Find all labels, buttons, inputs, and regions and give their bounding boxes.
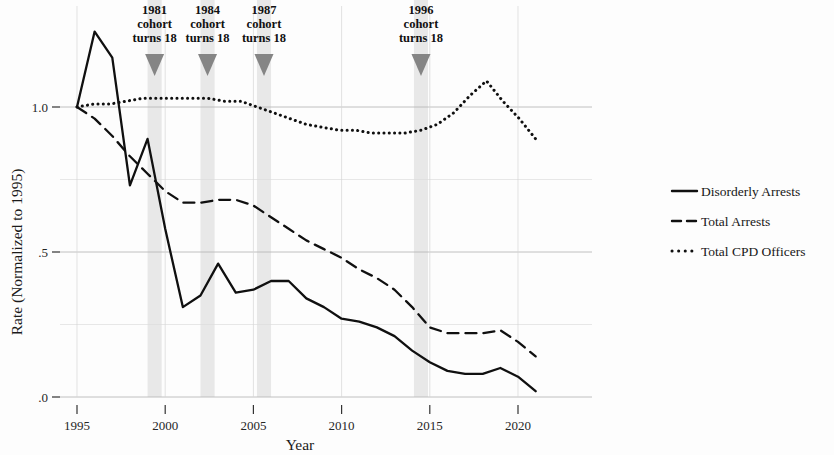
- legend-item-total-cpd-officers: Total CPD Officers: [672, 244, 806, 259]
- label-cohort-1981-line3: turns 18: [133, 31, 177, 45]
- label-cohort-1984-line1: 1984: [195, 3, 221, 17]
- y-tick-label: 1.0: [32, 100, 48, 115]
- x-tick-label: 1995: [64, 418, 90, 433]
- series-line-disorderly-arrests: [77, 32, 536, 392]
- chart-canvas: .0.51.0199520002005201020152020 1981coho…: [0, 0, 834, 455]
- legend-label: Disorderly Arrests: [701, 184, 800, 199]
- series-line-total-cpd-officers: [77, 81, 536, 139]
- x-axis-label: Year: [286, 436, 315, 453]
- label-cohort-1984-line3: turns 18: [185, 31, 229, 45]
- label-cohort-1984-line2: cohort: [190, 17, 226, 31]
- label-cohort-1987-line1: 1987: [251, 3, 276, 17]
- y-axis-label: Rate (Normalized to 1995): [8, 169, 26, 336]
- label-cohort-1981-line1: 1981: [142, 3, 167, 17]
- cohort-annotation-labels: 1981cohortturns 181984cohortturns 181987…: [133, 3, 443, 45]
- data-series-group: [77, 32, 536, 392]
- x-tick-label: 2000: [152, 418, 178, 433]
- label-cohort-1996-line1: 1996: [408, 3, 433, 17]
- y-tick-label: .0: [38, 390, 48, 405]
- y-tick-label: .5: [38, 245, 48, 260]
- x-tick-label: 2005: [240, 418, 266, 433]
- x-tick-label: 2015: [417, 418, 443, 433]
- legend-label: Total Arrests: [701, 214, 770, 229]
- gridlines: [60, 6, 592, 397]
- legend-label: Total CPD Officers: [701, 244, 806, 259]
- label-cohort-1981-line2: cohort: [137, 17, 173, 31]
- chart-figure: .0.51.0199520002005201020152020 1981coho…: [0, 0, 834, 455]
- cohort-shaded-bands: [148, 0, 428, 397]
- x-tick-label: 2010: [329, 418, 355, 433]
- label-cohort-1987-line3: turns 18: [242, 31, 286, 45]
- axis-ticks: .0.51.0199520002005201020152020: [32, 100, 531, 433]
- cohort-arrow-markers: [145, 54, 430, 76]
- legend: Disorderly ArrestsTotal ArrestsTotal CPD…: [672, 184, 806, 259]
- label-cohort-1996-line3: turns 18: [399, 31, 443, 45]
- legend-item-total-arrests: Total Arrests: [672, 214, 770, 229]
- legend-item-disorderly-arrests: Disorderly Arrests: [672, 184, 800, 199]
- label-cohort-1996-line2: cohort: [404, 17, 440, 31]
- label-cohort-1987-line2: cohort: [247, 17, 283, 31]
- x-tick-label: 2020: [505, 418, 531, 433]
